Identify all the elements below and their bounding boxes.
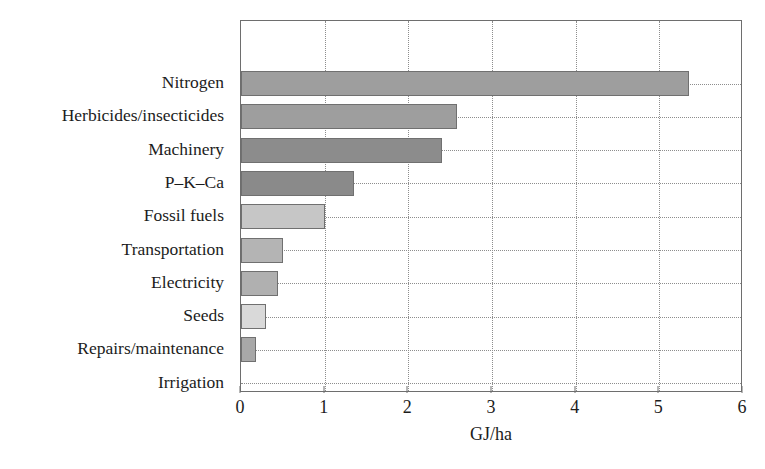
x-tick-mark (240, 386, 241, 393)
x-tick-label-4: 4 (570, 394, 579, 420)
x-tick-mark (407, 386, 408, 393)
y-label-p-k-ca: P–K–Ca (165, 170, 224, 195)
x-tick-label-5: 5 (654, 394, 663, 420)
bar-machinery (241, 138, 442, 163)
x-tick-mark (323, 386, 324, 393)
bar-transportation (241, 238, 283, 263)
y-label-herbicides-insecticides: Herbicides/insecticides (62, 103, 224, 128)
x-tick-mark (574, 386, 575, 393)
x-tick-mark (491, 386, 492, 393)
chart-figure: NitrogenHerbicides/insecticidesMachinery… (0, 0, 765, 469)
bar-repairs-maintenance (241, 337, 256, 362)
x-tick-label-2: 2 (403, 394, 412, 420)
bar-fossil-fuels (241, 204, 325, 229)
x-axis-tick-labels: 0123456 (240, 394, 742, 424)
y-label-fossil-fuels: Fossil fuels (144, 203, 224, 228)
bar-electricity (241, 271, 278, 296)
bar-seeds (241, 304, 266, 329)
y-label-seeds: Seeds (183, 303, 224, 328)
x-tick-label-0: 0 (236, 394, 245, 420)
x-tick-label-3: 3 (487, 394, 496, 420)
x-tick-mark (742, 386, 743, 393)
bar-p-k-ca (241, 171, 354, 196)
x-tick-mark (658, 386, 659, 393)
y-label-electricity: Electricity (151, 270, 224, 295)
x-tick-label-6: 6 (738, 394, 747, 420)
x-axis-title: GJ/ha (240, 424, 742, 445)
plot-area (240, 20, 742, 392)
y-label-irrigation: Irrigation (158, 370, 224, 395)
y-label-transportation: Transportation (122, 237, 224, 262)
y-label-nitrogen: Nitrogen (162, 70, 224, 95)
bar-nitrogen (241, 71, 689, 96)
x-tick-label-1: 1 (319, 394, 328, 420)
bar-herbicides-insecticides (241, 104, 457, 129)
y-axis-category-labels: NitrogenHerbicides/insecticidesMachinery… (0, 20, 232, 392)
y-label-machinery: Machinery (148, 137, 224, 162)
y-label-repairs-maintenance: Repairs/maintenance (77, 336, 224, 361)
bar-series (241, 21, 741, 391)
